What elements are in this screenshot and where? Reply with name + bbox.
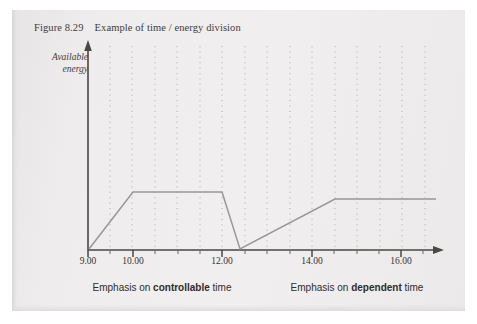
emphasis-right-prefix: Emphasis on — [291, 282, 352, 293]
emphasis-left-bold: controllable — [153, 282, 210, 293]
emphasis-left-prefix: Emphasis on — [93, 282, 154, 293]
emphasis-right-suffix: time — [402, 282, 424, 293]
x-tick-label-16: 16.00 — [390, 256, 411, 266]
x-tick-label-12: 12.00 — [211, 256, 232, 266]
x-tick-label-9: 9.00 — [80, 256, 97, 266]
emphasis-controllable-label: Emphasis on controllable time — [93, 282, 232, 293]
x-tick-label-10: 10.00 — [122, 256, 143, 266]
energy-curve — [89, 192, 436, 249]
x-axis — [88, 246, 444, 254]
y-axis — [84, 40, 92, 250]
x-tick-label-14: 14.00 — [301, 256, 322, 266]
gridlines — [110, 46, 425, 248]
figure-panel: Figure 8.29Example of time / energy divi… — [12, 10, 465, 311]
emphasis-right-bold: dependent — [351, 282, 402, 293]
emphasis-left-suffix: time — [210, 282, 232, 293]
figure-page: Figure 8.29Example of time / energy divi… — [0, 0, 477, 324]
emphasis-dependent-label: Emphasis on dependent time — [291, 282, 424, 293]
